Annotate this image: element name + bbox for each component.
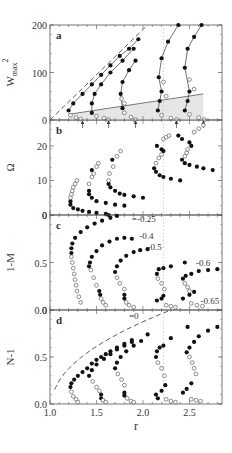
data-point-filled bbox=[70, 241, 74, 245]
data-point-open bbox=[92, 276, 96, 280]
data-point-open bbox=[96, 161, 100, 165]
data-point-open bbox=[164, 397, 168, 401]
data-point-filled bbox=[108, 216, 112, 220]
data-point-filled bbox=[69, 381, 73, 385]
data-point-filled bbox=[94, 199, 98, 203]
data-point-filled bbox=[108, 352, 112, 356]
data-point-filled bbox=[99, 82, 103, 86]
x-tick-label: 2.0 bbox=[137, 407, 150, 418]
data-point-open bbox=[199, 399, 203, 403]
data-point-filled bbox=[76, 207, 80, 211]
series-eps=-0.5 bbox=[113, 247, 150, 309]
data-point-filled bbox=[93, 221, 97, 225]
data-point-filled bbox=[157, 75, 161, 79]
data-point-filled bbox=[90, 255, 94, 259]
data-point-filled bbox=[94, 358, 98, 362]
data-point-filled bbox=[87, 374, 91, 378]
data-point-filled bbox=[72, 377, 76, 381]
data-point-open bbox=[79, 301, 83, 305]
data-point-open bbox=[104, 303, 108, 307]
data-point-open bbox=[70, 261, 74, 265]
data-point-open bbox=[76, 400, 80, 404]
data-point-open bbox=[127, 303, 131, 307]
data-point-open bbox=[194, 372, 198, 376]
data-point-open bbox=[116, 372, 120, 376]
data-point-open bbox=[192, 366, 196, 370]
data-point-open bbox=[75, 289, 79, 293]
data-point-filled bbox=[122, 204, 126, 208]
data-point-open bbox=[156, 277, 160, 281]
data-point-filled bbox=[115, 264, 119, 268]
panel-letter: a bbox=[56, 29, 62, 41]
data-point-filled bbox=[68, 385, 72, 389]
data-point-filled bbox=[186, 47, 190, 51]
y-tick-label: 10 bbox=[37, 175, 47, 186]
data-point-filled bbox=[215, 325, 219, 329]
data-point-open bbox=[95, 114, 99, 118]
data-point-open bbox=[125, 396, 129, 400]
data-point-open bbox=[87, 182, 91, 186]
data-point-filled bbox=[104, 201, 108, 205]
data-point-filled bbox=[180, 137, 184, 141]
data-point-open bbox=[154, 161, 158, 165]
data-point-filled bbox=[127, 68, 131, 72]
data-point-filled bbox=[180, 158, 184, 162]
panel-b: 01020bΩ bbox=[4, 120, 222, 221]
data-point-filled bbox=[132, 250, 136, 254]
data-point-filled bbox=[183, 108, 187, 112]
data-point-filled bbox=[154, 393, 158, 397]
data-point-filled bbox=[68, 203, 72, 207]
data-point-filled bbox=[159, 389, 163, 393]
data-point-open bbox=[111, 165, 115, 169]
data-point-filled bbox=[132, 47, 136, 51]
x-axis-label: r bbox=[134, 419, 138, 433]
data-point-filled bbox=[166, 40, 170, 44]
data-point-filled bbox=[100, 243, 104, 247]
data-point-open bbox=[107, 179, 111, 183]
data-point-open bbox=[188, 289, 192, 293]
data-point-filled bbox=[139, 339, 143, 343]
data-point-filled bbox=[169, 336, 173, 340]
data-point-filled bbox=[201, 166, 205, 170]
data-point-filled bbox=[122, 293, 126, 297]
data-point-open bbox=[71, 266, 75, 270]
data-point-filled bbox=[118, 54, 122, 58]
data-point-open bbox=[160, 366, 164, 370]
data-point-filled bbox=[122, 344, 126, 348]
data-point-filled bbox=[120, 59, 124, 63]
data-point-filled bbox=[211, 168, 215, 172]
series-eps=-0.4 bbox=[87, 236, 134, 307]
data-point-filled bbox=[108, 185, 112, 189]
y-tick-label: 200 bbox=[32, 20, 47, 31]
data-point-open bbox=[91, 380, 95, 384]
y-tick-label: 0.5 bbox=[35, 258, 48, 269]
data-point-filled bbox=[113, 270, 117, 274]
data-point-filled bbox=[186, 325, 190, 329]
data-point-open bbox=[160, 153, 164, 157]
data-point-open bbox=[120, 97, 124, 101]
data-point-open bbox=[162, 374, 166, 378]
multi-panel-chart: 0100200aWmax201020bΩ0.00.50c1-M=-0.25-0.… bbox=[0, 0, 232, 453]
data-point-open bbox=[164, 94, 168, 98]
data-point-open bbox=[186, 147, 190, 151]
data-point-open bbox=[69, 113, 73, 117]
data-point-filled bbox=[189, 381, 193, 385]
data-point-filled bbox=[98, 293, 102, 297]
data-point-filled bbox=[100, 219, 104, 223]
x-tick-label: 1.5 bbox=[90, 407, 103, 418]
data-point-filled bbox=[108, 63, 112, 67]
data-point-open bbox=[115, 154, 119, 158]
data-point-filled bbox=[71, 206, 75, 210]
curve-label: -0.4 bbox=[139, 231, 154, 241]
series-eps=-0.6 bbox=[155, 260, 187, 309]
data-point-filled bbox=[87, 264, 91, 268]
data-point-filled bbox=[161, 344, 165, 348]
data-point-filled bbox=[76, 374, 80, 378]
data-point-open bbox=[160, 113, 164, 117]
series-line bbox=[121, 61, 136, 109]
data-point-filled bbox=[163, 383, 167, 387]
data-point-open bbox=[162, 80, 166, 84]
data-point-filled bbox=[94, 249, 98, 253]
data-point-filled bbox=[115, 361, 119, 365]
data-point-open bbox=[75, 179, 79, 183]
